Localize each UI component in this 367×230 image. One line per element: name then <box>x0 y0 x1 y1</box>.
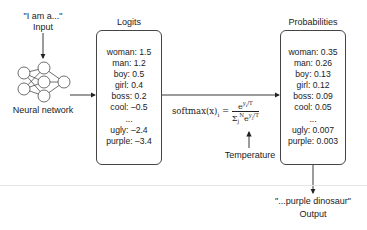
temperature-label: Temperature <box>222 150 278 160</box>
output-quote: "...purple dinosaur" <box>268 196 358 206</box>
probability-item: ugly: 0.007 <box>281 125 345 136</box>
logit-item: boy: 0.5 <box>97 69 161 80</box>
probability-item: girl: 0.12 <box>281 80 345 91</box>
page-fold-line <box>0 185 367 186</box>
softmax-fraction: eyi/T ΣjNeyj/T <box>232 100 259 124</box>
logit-item: woman: 1.5 <box>97 47 161 58</box>
probabilities-list: woman: 0.35 man: 0.26 boy: 0.13 girl: 0.… <box>281 47 345 147</box>
softmax-formula: softmax(x)i = eyi/T ΣjNeyj/T <box>172 100 259 124</box>
neural-network-icon <box>18 62 70 102</box>
logit-item: ugly: –2.4 <box>97 125 161 136</box>
logits-box: woman: 1.5 man: 1.2 boy: 0.5 girl: 0.4 b… <box>96 30 162 165</box>
probability-item: cool: 0.05 <box>281 102 345 113</box>
logits-title: Logits <box>96 17 162 27</box>
softmax-numerator: eyi/T <box>232 100 259 112</box>
probability-item: woman: 0.35 <box>281 47 345 58</box>
logit-item: girl: 0.4 <box>97 80 161 91</box>
softmax-lhs: softmax(x) <box>172 106 217 116</box>
output-label: Output <box>268 209 358 219</box>
probability-item: man: 0.26 <box>281 58 345 69</box>
softmax-denominator: ΣjNeyj/T <box>232 112 259 124</box>
logit-item: cool: –0.5 <box>97 102 161 113</box>
input-quote: "I am a..." <box>13 11 73 21</box>
logit-item: boss: 0.2 <box>97 91 161 102</box>
probability-item: purple: 0.003 <box>281 136 345 147</box>
logit-ellipsis: ... <box>97 114 161 125</box>
probability-ellipsis: ... <box>281 114 345 125</box>
probability-item: boss: 0.09 <box>281 91 345 102</box>
logits-list: woman: 1.5 man: 1.2 boy: 0.5 girl: 0.4 b… <box>97 47 161 147</box>
logit-item: man: 1.2 <box>97 58 161 69</box>
probabilities-box: woman: 0.35 man: 0.26 boy: 0.13 girl: 0.… <box>280 30 346 165</box>
probabilities-title: Probabilities <box>280 17 346 27</box>
probability-item: boy: 0.13 <box>281 69 345 80</box>
neural-network-label: Neural network <box>0 105 86 115</box>
logit-item: purple: –3.4 <box>97 136 161 147</box>
input-label: Input <box>13 22 73 32</box>
